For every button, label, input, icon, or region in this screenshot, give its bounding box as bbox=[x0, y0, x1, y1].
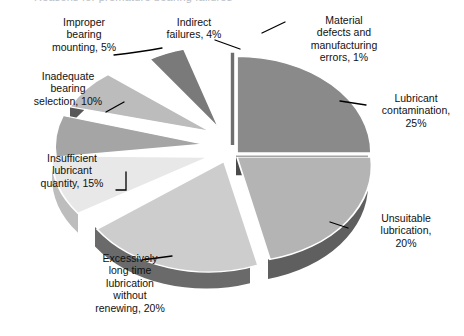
pie-chart-figure: Reasons for premature bearing failures bbox=[0, 0, 464, 336]
label-lubricant-contamination: Lubricant contamination, 25% bbox=[368, 92, 464, 129]
label-insufficient-lubricant-quantity: Insufficient lubricant quantity, 15% bbox=[8, 152, 136, 189]
label-unsuitable-lubrication: Unsuitable lubrication, 20% bbox=[350, 212, 462, 249]
label-excessively-long-time-lubrication: Excessively long time lubrication withou… bbox=[60, 252, 200, 314]
label-improper-bearing-mounting: Improper bearing mounting, 5% bbox=[20, 16, 148, 53]
slice-lubricant-contamination bbox=[237, 56, 371, 152]
label-material-defects: Material defects and manufacturing error… bbox=[290, 14, 398, 64]
label-indirect-failures: Indirect failures, 4% bbox=[140, 16, 248, 41]
slice-material-defects bbox=[230, 52, 235, 146]
label-inadequate-bearing-selection: Inadequate bearing selection, 10% bbox=[4, 70, 132, 107]
